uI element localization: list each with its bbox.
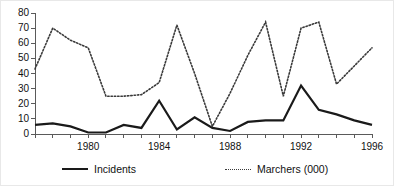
legend-item-marchers: Marchers (000) bbox=[225, 160, 328, 178]
chart-container: 01020304050607080 19801984198819921996 I… bbox=[0, 0, 395, 187]
legend-swatch-dotted-icon bbox=[225, 169, 251, 170]
x-tick-label: 1980 bbox=[68, 142, 108, 152]
legend-item-incidents: Incidents bbox=[62, 160, 136, 178]
chart-plot-area bbox=[0, 0, 395, 187]
y-tick-label: 0 bbox=[5, 129, 29, 139]
x-tick-label: 1984 bbox=[139, 142, 179, 152]
y-tick-label: 70 bbox=[5, 23, 29, 33]
y-tick-label: 30 bbox=[5, 84, 29, 94]
y-tick-label: 60 bbox=[5, 38, 29, 48]
x-tick-label: 1996 bbox=[352, 142, 392, 152]
x-tick-label: 1992 bbox=[281, 142, 321, 152]
y-tick-label: 10 bbox=[5, 114, 29, 124]
legend-swatch-solid-icon bbox=[62, 168, 88, 170]
legend-label-marchers: Marchers (000) bbox=[257, 163, 328, 175]
y-tick-label: 80 bbox=[5, 8, 29, 18]
series-layer bbox=[35, 22, 372, 132]
chart-legend: Incidents Marchers (000) bbox=[0, 160, 395, 182]
y-tick-label: 50 bbox=[5, 53, 29, 63]
y-tick-label: 40 bbox=[5, 69, 29, 79]
legend-label-incidents: Incidents bbox=[94, 163, 136, 175]
series-line-incidents bbox=[35, 86, 372, 133]
y-tick-label: 20 bbox=[5, 99, 29, 109]
x-tick-label: 1988 bbox=[210, 142, 250, 152]
